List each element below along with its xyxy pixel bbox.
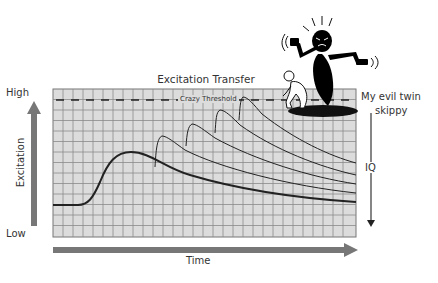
y-axis-low-label: Low (6, 228, 26, 239)
y-axis-high-label: High (6, 87, 29, 98)
excitation-arrow (27, 101, 41, 226)
annotation-line-1: My evil twin (361, 91, 421, 102)
shadow-ellipse (288, 105, 358, 117)
diagram-title: Excitation Transfer (144, 73, 268, 85)
y-axis-label: Excitation (15, 133, 26, 193)
diagram-canvas (0, 0, 438, 283)
threshold-label: Crazy Threshold (178, 95, 239, 103)
iq-label: IQ (364, 162, 377, 173)
annotation-line-2: skippy (375, 105, 407, 116)
x-axis-label: Time (186, 255, 210, 266)
excitation-transfer-diagram: Excitation Transfer High Low Excitation … (0, 0, 438, 283)
